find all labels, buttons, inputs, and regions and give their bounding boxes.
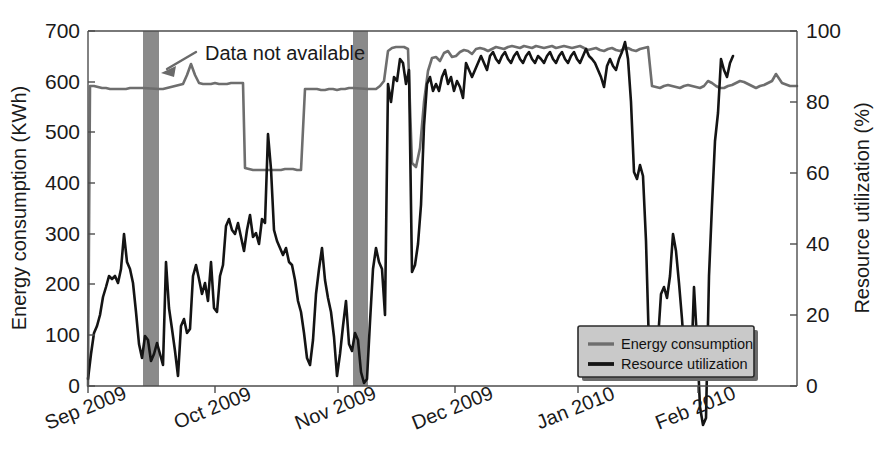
right-axis-title: Resource utilization (%)	[851, 102, 873, 313]
left-ytick-500: 500	[45, 120, 80, 143]
xtick-label-sep-2009: Sep 2009	[42, 381, 130, 433]
legend[interactable]: Energy consumption Resource utilization	[578, 326, 758, 381]
annotation-label: Data not available	[205, 42, 365, 64]
left-ytick-200: 200	[45, 272, 80, 295]
left-ytick-600: 600	[45, 70, 80, 93]
left-ytick-0: 0	[68, 374, 80, 397]
left-ytick-400: 400	[45, 171, 80, 194]
right-ytick-0: 0	[806, 374, 818, 397]
xtick-label-nov-2009: Nov 2009	[292, 381, 380, 433]
chart-svg: 0 100 200 300 400 500 600 700 Energy con…	[0, 0, 888, 461]
left-axis: 0 100 200 300 400 500 600 700 Energy con…	[8, 19, 95, 397]
chart-figure: 0 100 200 300 400 500 600 700 Energy con…	[0, 0, 888, 461]
xtick-label-dec-2009: Dec 2009	[409, 381, 497, 433]
right-ytick-60: 60	[806, 161, 829, 184]
x-axis: Sep 2009 Oct 2009 Nov 2009 Dec 2009 Jan …	[42, 381, 739, 433]
xtick-label-oct-2009: Oct 2009	[171, 382, 255, 433]
right-ytick-20: 20	[806, 303, 829, 326]
legend-label-energy-consumption: Energy consumption	[621, 336, 753, 352]
left-ytick-100: 100	[45, 323, 80, 346]
left-ytick-700: 700	[45, 19, 80, 42]
right-ytick-40: 40	[806, 232, 829, 255]
right-ytick-80: 80	[806, 90, 829, 113]
right-ytick-100: 100	[806, 19, 841, 42]
xtick-label-jan-2010: Jan 2010	[533, 382, 618, 433]
right-axis: 0 20 40 60 80 100 Resource utilization (…	[790, 19, 873, 397]
legend-label-resource-utilization: Resource utilization	[621, 356, 748, 372]
xtick-label-feb-2010: Feb 2010	[652, 381, 739, 433]
left-ytick-300: 300	[45, 222, 80, 245]
left-axis-title: Energy consumption (KWh)	[8, 86, 30, 331]
shaded-region-1	[143, 31, 159, 386]
